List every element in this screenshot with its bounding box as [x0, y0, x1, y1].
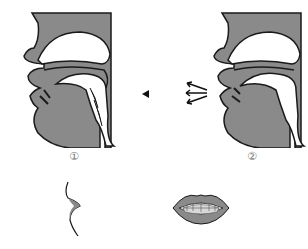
figure-label-1: ①: [64, 150, 84, 163]
figure-label-2: ②: [242, 150, 262, 163]
arrowhead-icon: [142, 90, 150, 98]
sagittal-diagram-1: [10, 8, 120, 148]
sagittal-diagram-2: [200, 8, 308, 148]
airflow-arrows-icon: [183, 80, 209, 106]
lips-profile-diagram: [62, 180, 86, 238]
lips-front-diagram: [171, 190, 231, 226]
